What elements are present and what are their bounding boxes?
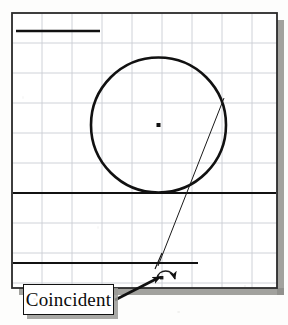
drawing-sheet — [12, 13, 277, 288]
figure-canvas: Coincident — [0, 0, 288, 325]
cursor-point-square-icon — [160, 276, 163, 279]
sketch-scene — [0, 0, 288, 325]
coincident-callout-box[interactable]: Coincident — [23, 284, 114, 315]
coincident-callout-label: Coincident — [26, 290, 111, 309]
circle-center-point[interactable] — [157, 123, 161, 127]
